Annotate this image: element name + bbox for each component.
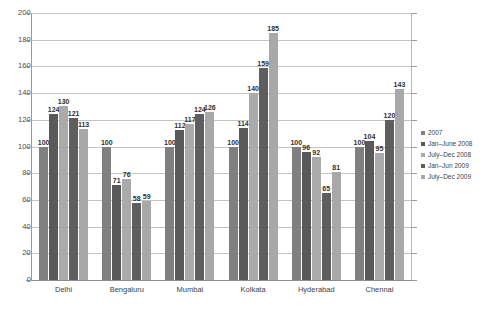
bar-value-label: 124 [48,106,60,113]
bar-slot: 104 [365,13,374,280]
bar[interactable] [322,193,331,280]
y-axis-right-tick [412,200,417,201]
bar-slot: 114 [239,13,248,280]
x-axis-category-label: Bengaluru [95,286,158,294]
bar-slot: 112 [175,13,184,280]
bar-value-label: 100 [38,139,50,146]
bar-value-label: 120 [384,112,396,119]
bar-slot: 124 [49,13,58,280]
bar[interactable] [365,141,374,280]
bar[interactable] [175,130,184,280]
bar-value-label: 100 [164,139,176,146]
bar-value-label: 159 [257,60,269,67]
bar[interactable] [69,118,78,280]
legend-item[interactable]: Jan–June 2008 [421,138,495,149]
bar[interactable] [269,33,278,280]
bar-group: 10071765859 [95,13,158,280]
x-axis-category-label: Mumbai [158,286,221,294]
bar-value-label: 113 [78,121,89,128]
bar-value-label: 76 [123,171,131,178]
legend-item[interactable]: 2007 [421,127,495,138]
legend-item-label: Jan–June 2008 [428,140,472,147]
bar[interactable] [395,89,404,280]
bar[interactable] [142,201,151,280]
bar-slot: 100 [39,13,48,280]
bar[interactable] [249,93,258,280]
legend-swatch-icon [421,131,425,135]
legend-item-label: July–Dec 2008 [428,151,471,158]
bar[interactable] [39,147,48,281]
bar-group: 10096926581 [285,13,348,280]
legend-item[interactable]: July–Dec 2009 [421,171,495,182]
bar[interactable] [229,147,238,281]
bar[interactable] [185,124,194,280]
bar-slot: 126 [205,13,214,280]
bar[interactable] [59,106,68,280]
bar-value-label: 143 [394,81,406,88]
bar[interactable] [132,203,141,280]
legend-swatch-icon [421,175,425,179]
bar[interactable] [49,114,58,280]
bar[interactable] [79,129,88,280]
bar-group: 10010495120143 [348,13,411,280]
bar[interactable] [355,147,364,281]
bar-slot: 130 [59,13,68,280]
bar-slot: 159 [259,13,268,280]
bar-slot: 65 [322,13,331,280]
bar[interactable] [205,112,214,280]
bar-slot: 124 [195,13,204,280]
y-axis-tick-mark [26,147,30,148]
bar[interactable] [302,152,311,280]
bar-slot: 81 [332,13,341,280]
bar[interactable] [375,153,384,280]
bar-value-label: 104 [364,133,376,140]
x-axis-labels: DelhiBengaluruMumbaiKolkataHyderabadChen… [32,286,411,294]
legend-item[interactable]: July–Dec 2008 [421,149,495,160]
y-axis-tick-mark [26,120,30,121]
legend-swatch-icon [421,153,425,157]
bar[interactable] [112,185,121,280]
bar-value-label: 92 [312,149,320,156]
bar-slot: 121 [69,13,78,280]
bar[interactable] [259,68,268,280]
y-axis-right-tick [412,253,417,254]
y-axis-right-tick [412,66,417,67]
x-axis-category-label: Delhi [32,286,95,294]
bar[interactable] [165,147,174,281]
y-axis-tick-mark [26,66,30,67]
y-axis-tick-mark [26,173,30,174]
bar[interactable] [332,172,341,280]
bar-value-label: 71 [113,177,121,184]
bar-value-label: 112 [174,122,185,129]
y-axis-right-tick [412,13,417,14]
bar-slot: 58 [132,13,141,280]
x-axis-category-label: Chennai [348,286,411,294]
bar-group: 100114140159185 [222,13,285,280]
y-axis-tick-mark [26,93,30,94]
bar-group: 100124130121113 [32,13,95,280]
bar[interactable] [102,147,111,281]
bar-slot: 117 [185,13,194,280]
bar-slot: 113 [79,13,88,280]
bar[interactable] [385,120,394,280]
bar-slot: 185 [269,13,278,280]
chart-legend: 2007Jan–June 2008July–Dec 2008Jan–Jun 20… [421,127,495,182]
bar[interactable] [195,114,204,280]
bar-value-label: 100 [101,139,113,146]
bar-value-label: 81 [332,164,340,171]
bar-value-label: 114 [237,120,248,127]
legend-item[interactable]: Jan–Jun 2009 [421,160,495,171]
bar[interactable] [312,157,321,280]
bar-value-label: 58 [133,195,141,202]
y-axis-right-tick [412,280,417,281]
y-axis-tick-mark [26,253,30,254]
bar-group: 100112117124126 [158,13,221,280]
bar[interactable] [239,128,248,280]
bar-value-label: 65 [322,185,330,192]
legend-swatch-icon [421,142,425,146]
bar-chart: 020406080100120140160180200 100124130121… [0,0,497,314]
bar[interactable] [292,147,301,281]
bar[interactable] [122,179,131,280]
y-axis-right-tick [412,40,417,41]
bar-value-label: 100 [290,139,302,146]
